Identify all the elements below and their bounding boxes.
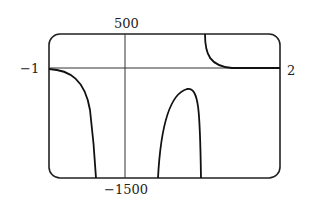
viewing-window-frame: [49, 34, 280, 178]
y-min-label: −1500: [104, 183, 148, 196]
x-max-label: 2: [287, 64, 295, 77]
x-min-label: −1: [20, 62, 39, 75]
curve-branch-2: [158, 89, 201, 178]
curve-branch-1: [49, 69, 96, 178]
curve-branch-3: [205, 34, 280, 68]
y-max-label: 500: [114, 17, 139, 30]
plot-area: [0, 0, 313, 202]
